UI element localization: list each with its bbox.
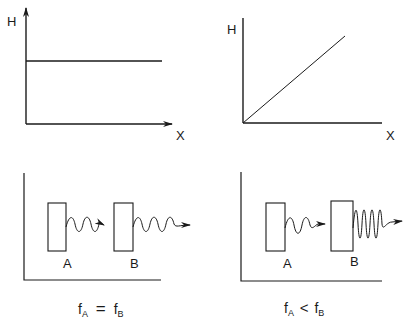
top-left-graph [26,8,172,124]
caption-operator: = [96,299,106,318]
box-b [331,201,353,251]
caption-less-frequency: fA < fB [284,300,324,318]
top-right-graph [243,18,382,123]
bottom-right-box-a-label: A [283,257,292,270]
box-a [266,203,285,251]
caption-equal-frequency: fA = fB [78,300,124,319]
diagram-canvas [0,0,415,323]
box-a [48,203,66,251]
linear-h-line [243,36,345,123]
top-right-x-label: X [386,129,395,142]
wave-a [66,217,104,231]
caption-sub-a: A [82,309,88,319]
bottom-right-box-b-label: B [350,255,359,268]
box-b [114,203,133,251]
top-right-y-label: H [227,23,236,36]
frame-axes [241,172,382,281]
wave-b [133,217,190,231]
bottom-left-box-a-label: A [63,257,72,270]
caption-sub-a: A [288,308,294,318]
frame-axes [24,173,161,280]
bottom-left-panel [24,173,190,280]
caption-sub-b: B [318,308,324,318]
bottom-right-panel [241,172,402,281]
caption-sub-b: B [118,309,124,319]
wave-b [353,210,402,239]
top-left-y-label: H [7,15,16,28]
wave-a [285,218,325,234]
top-left-x-label: X [176,129,185,142]
caption-operator: < [300,299,309,316]
bottom-left-box-b-label: B [130,257,139,270]
